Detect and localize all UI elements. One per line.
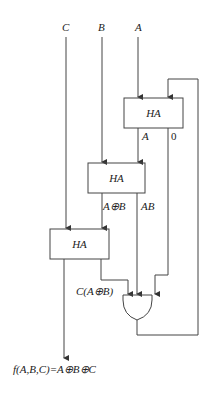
or-gate	[123, 295, 152, 320]
mid-carry-label: AB	[141, 201, 154, 212]
input-c-label: C	[62, 22, 69, 33]
ha-bot-label: HA	[50, 239, 109, 250]
input-b-label: B	[98, 22, 105, 33]
top-sum-label: A	[142, 131, 149, 142]
wire-gate-out	[137, 320, 198, 335]
input-a-label: A	[135, 22, 142, 33]
top-carry-label: 0	[171, 131, 177, 142]
ha-mid-label: HA	[88, 173, 145, 184]
ha-top-label: HA	[124, 108, 183, 119]
circuit-diagram	[0, 0, 209, 397]
mid-sum-label: A⊕B	[103, 201, 125, 212]
bot-carry-label: C(A⊕B)	[76, 286, 113, 297]
wire-top-carry	[155, 128, 168, 294]
output-formula: f(A,B,C)=A⊕B⊕C	[13, 364, 96, 375]
